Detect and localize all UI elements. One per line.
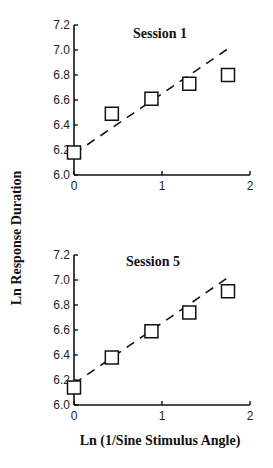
data-point-marker: [183, 77, 196, 90]
y-tick-label: 6.4: [53, 118, 70, 132]
x-tick-label: 0: [71, 409, 78, 423]
data-point-marker: [68, 381, 81, 394]
x-tick-label: 1: [159, 179, 166, 193]
x-tick-label: 2: [247, 179, 254, 193]
y-tick-label: 6.6: [53, 93, 70, 107]
data-point-marker: [183, 306, 196, 319]
x-tick-label: 1: [159, 409, 166, 423]
panel-session-5: 6.06.26.46.66.87.07.2012Session 5: [53, 248, 253, 423]
data-point-marker: [105, 351, 118, 364]
data-point-marker: [68, 146, 81, 159]
x-tick-label: 2: [247, 409, 254, 423]
panel-title: Session 1: [133, 26, 187, 41]
data-point-marker: [145, 325, 158, 338]
y-tick-label: 7.0: [53, 273, 70, 287]
chart-figure: 6.06.26.46.66.87.07.2012Session 1 6.06.2…: [0, 0, 273, 468]
data-point-marker: [145, 92, 158, 105]
y-tick-label: 6.6: [53, 323, 70, 337]
y-tick-label: 7.2: [53, 18, 70, 32]
y-tick-label: 7.2: [53, 248, 70, 262]
panel-title: Session 5: [126, 254, 180, 269]
y-axis-title: Ln Response Duration: [9, 171, 24, 306]
data-point-marker: [222, 285, 235, 298]
y-tick-label: 6.8: [53, 298, 70, 312]
y-tick-label: 6.4: [53, 348, 70, 362]
panel-session-1: 6.06.26.46.66.87.07.2012Session 1: [53, 18, 253, 193]
data-point-marker: [222, 69, 235, 82]
y-tick-label: 6.8: [53, 68, 70, 82]
x-tick-label: 0: [71, 179, 78, 193]
y-tick-label: 7.0: [53, 43, 70, 57]
y-tick-label: 6.0: [53, 398, 70, 412]
x-axis-title: Ln (1/Sine Stimulus Angle): [80, 433, 241, 449]
data-point-marker: [105, 107, 118, 120]
y-tick-label: 6.0: [53, 168, 70, 182]
